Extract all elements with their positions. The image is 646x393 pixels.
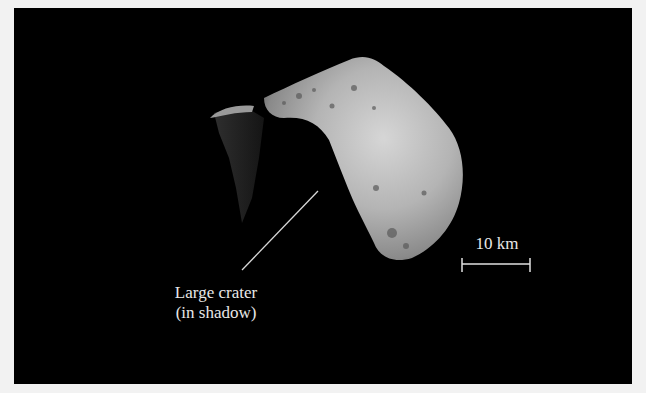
crater-label-line1: Large crater xyxy=(156,283,276,303)
asteroid-illustration xyxy=(14,8,632,384)
asteroid-photo: Large crater (in shadow) 10 km xyxy=(14,8,632,384)
scale-bar-label: 10 km xyxy=(462,234,532,254)
scale-bar xyxy=(462,258,530,272)
crater-label-line2: (in shadow) xyxy=(156,303,276,323)
leader-line xyxy=(242,191,318,270)
crater-label: Large crater (in shadow) xyxy=(156,283,276,323)
